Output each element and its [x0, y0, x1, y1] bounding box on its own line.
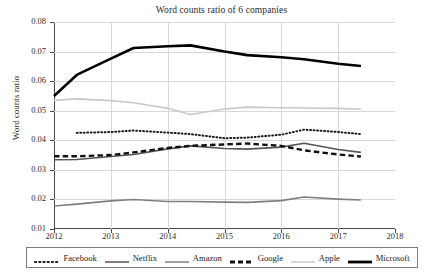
- legend-label: Netflix: [133, 253, 157, 263]
- x-axis-tick-mark: [338, 229, 339, 233]
- x-axis-tick-mark: [168, 229, 169, 233]
- series-line-facebook: [77, 130, 361, 139]
- plot-area: [54, 22, 395, 229]
- legend-label: Apple: [319, 253, 340, 263]
- y-axis-tick-label: 0.04: [0, 134, 46, 144]
- legend-label: Amazon: [193, 253, 222, 263]
- legend-swatch-google: [229, 253, 255, 263]
- y-axis-tick-label: 0.05: [0, 105, 46, 115]
- x-axis-tick-mark: [281, 229, 282, 233]
- series-lines: [54, 22, 395, 229]
- legend-label: Microsoft: [376, 253, 410, 263]
- x-axis-tick-mark: [225, 229, 226, 233]
- x-axis-tick-mark: [395, 229, 396, 233]
- legend-swatch-amazon: [164, 253, 190, 263]
- legend-item-apple[interactable]: Apple: [290, 253, 340, 263]
- y-axis-tick-label: 0.06: [0, 75, 46, 85]
- y-axis-tick-label: 0.08: [0, 16, 46, 26]
- legend-item-amazon[interactable]: Amazon: [164, 253, 222, 263]
- legend-swatch-apple: [290, 253, 316, 263]
- y-axis-tick-label: 0.03: [0, 164, 46, 174]
- series-line-apple: [54, 99, 361, 115]
- legend-swatch-netflix: [104, 253, 130, 263]
- legend-item-google[interactable]: Google: [229, 253, 283, 263]
- series-line-amazon: [54, 197, 361, 206]
- chart-container: Word counts ratio of 6 companies Word co…: [0, 0, 443, 278]
- legend-swatch-microsoft: [347, 253, 373, 263]
- x-axis-tick-mark: [54, 229, 55, 233]
- legend-item-facebook[interactable]: Facebook: [34, 253, 96, 263]
- legend-swatch-facebook: [34, 253, 60, 263]
- chart-legend: FacebookNetflixAmazonGoogleAppleMicrosof…: [26, 247, 418, 268]
- legend-item-microsoft[interactable]: Microsoft: [347, 253, 410, 263]
- chart-title: Word counts ratio of 6 companies: [0, 5, 443, 15]
- y-axis-tick-label: 0.02: [0, 193, 46, 203]
- legend-label: Google: [258, 253, 283, 263]
- y-axis-tick-label: 0.07: [0, 46, 46, 56]
- x-axis-tick-mark: [111, 229, 112, 233]
- series-line-microsoft: [54, 45, 361, 96]
- legend-label: Facebook: [63, 253, 96, 263]
- legend-item-netflix[interactable]: Netflix: [104, 253, 157, 263]
